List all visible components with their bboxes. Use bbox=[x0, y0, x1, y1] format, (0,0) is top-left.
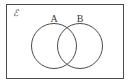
set-label-a: A bbox=[50, 13, 58, 24]
venn-diagram-figure: ℰ A B bbox=[0, 0, 130, 84]
set-label-b: B bbox=[77, 13, 84, 24]
venn-diagram-canvas: ℰ A B bbox=[0, 0, 130, 84]
universal-set-rectangle bbox=[7, 5, 124, 79]
